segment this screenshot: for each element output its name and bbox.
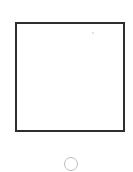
home-button[interactable] bbox=[64, 157, 78, 171]
screen-area[interactable] bbox=[15, 22, 125, 132]
device-frame bbox=[0, 0, 133, 172]
screen-speck-icon bbox=[92, 32, 94, 34]
